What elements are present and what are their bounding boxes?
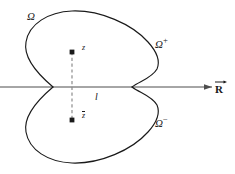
region-label-omega-minus-base: Ω — [155, 117, 163, 129]
segment-label-l-text: l — [95, 91, 98, 102]
region-label-omega-plus: Ω+ — [155, 36, 168, 50]
contour-upper-arc — [26, 11, 159, 87]
point-label-z-conjugate: z — [82, 112, 85, 120]
region-label-omega-minus: Ω− — [155, 115, 168, 129]
axis-label-R: R — [215, 84, 223, 95]
contour-diagram — [0, 0, 235, 174]
region-label-omega-text: Ω — [27, 10, 35, 22]
point-marker-z — [70, 50, 75, 55]
segment-label-l: l — [95, 92, 98, 102]
point-label-z: z — [82, 44, 85, 52]
vector-arrow-icon — [215, 80, 227, 84]
region-label-omega-plus-superscript: + — [163, 35, 168, 45]
region-label-omega: Ω — [27, 11, 35, 22]
point-label-z-conjugate-text: z — [82, 112, 85, 120]
point-label-z-text: z — [82, 43, 85, 52]
point-marker-z-conjugate — [70, 118, 75, 123]
region-label-omega-minus-superscript: − — [163, 114, 168, 124]
contour-lower-arc — [26, 87, 159, 163]
figure-container: Ω Ω+ Ω− l z z R — [0, 0, 235, 174]
axis-label-R-text: R — [215, 83, 223, 95]
real-axis-arrowhead — [204, 84, 212, 90]
region-label-omega-plus-base: Ω — [155, 38, 163, 50]
